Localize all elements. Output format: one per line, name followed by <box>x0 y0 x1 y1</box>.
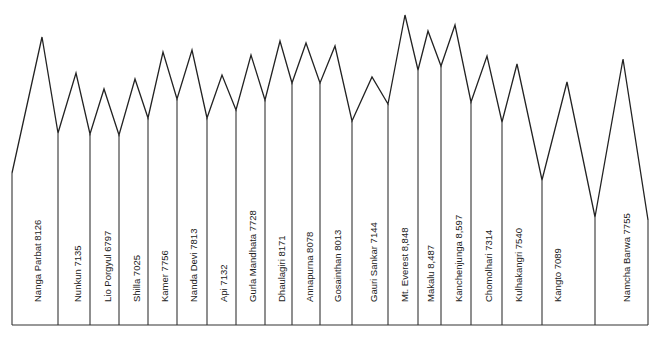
peak-label: Gosainthan 8013 <box>332 230 343 302</box>
peak-label: Kangto 7089 <box>552 248 563 302</box>
mountain-ridge-line <box>12 15 648 220</box>
peak-label: Shilla 7025 <box>131 255 142 302</box>
peak-label: Makalu 8,487 <box>425 245 436 302</box>
peak-label: Gurla Mandhata 7728 <box>247 210 258 302</box>
peak-label: Kamer 7756 <box>159 250 170 302</box>
peak-label: Dhaulagiri 8171 <box>276 235 287 302</box>
peak-label: Annapurna 8078 <box>304 232 315 302</box>
peak-label: Nunkun 7135 <box>72 245 83 302</box>
peak-label: Chomolhari 7314 <box>483 230 494 302</box>
peak-label: Kanchenjunga 8,597 <box>453 215 464 302</box>
peak-label: Kulhakangri 7540 <box>513 228 524 302</box>
peak-label: Lio Porgyul 6797 <box>102 231 113 302</box>
peak-label: Nanda Devi 7813 <box>188 229 199 302</box>
peak-label: Namcha Barwa 7755 <box>621 213 632 302</box>
mountain-profile-diagram: Nanga Parbat 8126Nunkun 7135Lio Porgyul … <box>0 0 661 343</box>
peak-label: Nanga Parbat 8126 <box>32 220 43 302</box>
peak-label: Mt. Everest 8,848 <box>399 228 410 302</box>
peak-label: Api 7132 <box>218 264 229 302</box>
peak-label: Gauri Sankar 7144 <box>368 222 379 302</box>
